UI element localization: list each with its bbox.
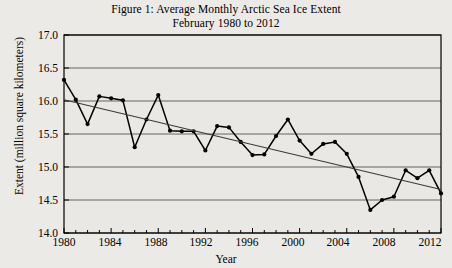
data-point[interactable] <box>356 175 360 179</box>
data-point[interactable] <box>286 117 290 121</box>
data-point[interactable] <box>345 152 349 156</box>
data-point[interactable] <box>427 168 431 172</box>
data-point[interactable] <box>74 98 78 102</box>
plot-area <box>0 0 452 268</box>
data-point[interactable] <box>121 98 125 102</box>
data-point[interactable] <box>109 96 113 100</box>
data-point[interactable] <box>415 176 419 180</box>
data-point[interactable] <box>333 140 337 144</box>
data-point[interactable] <box>227 125 231 129</box>
data-point[interactable] <box>97 94 101 98</box>
figure-container: Figure 1: Average Monthly Arctic Sea Ice… <box>0 0 452 268</box>
data-point[interactable] <box>404 168 408 172</box>
data-point[interactable] <box>62 78 66 82</box>
data-point[interactable] <box>133 145 137 149</box>
data-point[interactable] <box>250 153 254 157</box>
data-point[interactable] <box>392 195 396 199</box>
data-point[interactable] <box>180 129 184 133</box>
data-point[interactable] <box>215 124 219 128</box>
data-point[interactable] <box>274 134 278 138</box>
data-point[interactable] <box>85 122 89 126</box>
data-point[interactable] <box>309 152 313 156</box>
data-point[interactable] <box>380 198 384 202</box>
data-point[interactable] <box>168 129 172 133</box>
data-point[interactable] <box>262 152 266 156</box>
data-point[interactable] <box>298 139 302 143</box>
data-point[interactable] <box>439 191 443 195</box>
data-point[interactable] <box>321 142 325 146</box>
data-point[interactable] <box>203 148 207 152</box>
data-point[interactable] <box>156 93 160 97</box>
data-point[interactable] <box>368 208 372 212</box>
